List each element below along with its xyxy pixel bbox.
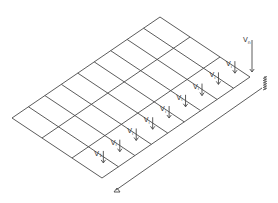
grid-line-row xyxy=(102,77,250,178)
grid-line-row xyxy=(12,17,160,118)
shear-force-arrow: Vi xyxy=(111,139,122,152)
grid-line-column xyxy=(61,84,151,144)
shear-force-arrow: Vi xyxy=(193,83,204,96)
arrow-label: Vi xyxy=(144,116,150,125)
diagram-canvas: V1ViViViViViViViViVn xyxy=(0,0,278,203)
shear-force-arrow: Vi xyxy=(209,71,220,84)
dimension-line xyxy=(114,76,267,192)
plate-grid xyxy=(12,17,250,178)
arrow-label: Vi xyxy=(193,83,199,92)
shear-force-arrow: Vi xyxy=(144,116,155,129)
grid-line-row xyxy=(72,57,220,158)
grid-line-column xyxy=(12,118,102,178)
grid-line-column xyxy=(111,51,201,111)
grid-line-column xyxy=(28,107,118,167)
isometric-plate-diagram: V1ViViViViViViViViVn xyxy=(0,0,278,203)
grid-line-column xyxy=(127,39,217,99)
arrow-label: V1 xyxy=(94,150,102,159)
end-shear-arrow: Vn xyxy=(243,36,254,72)
grid-line-column xyxy=(94,62,184,122)
triangle-marker-icon xyxy=(114,188,120,192)
shear-force-arrow: Vi xyxy=(160,105,171,118)
grid-line-column xyxy=(144,28,234,88)
arrow-label: Vi xyxy=(226,60,232,69)
arrow-label: Vi xyxy=(111,139,117,148)
shear-force-arrow: Vi xyxy=(127,127,138,140)
load-arrows: V1ViViViViViViViViVn xyxy=(94,36,254,163)
arrow-label: Vi xyxy=(177,94,183,103)
arrow-label: Vi xyxy=(209,71,215,80)
grid-line-column xyxy=(78,73,168,133)
shear-force-arrow: Vi xyxy=(226,60,237,73)
grid-line-column xyxy=(160,17,250,77)
grid-line-row xyxy=(42,37,190,138)
arrow-label: Vn xyxy=(243,36,251,45)
shear-force-arrow: Vi xyxy=(177,94,188,107)
arrow-label: Vi xyxy=(160,105,166,114)
grid-line-column xyxy=(45,96,135,156)
arrow-label: Vi xyxy=(127,127,133,136)
shear-force-arrow: V1 xyxy=(94,150,105,163)
